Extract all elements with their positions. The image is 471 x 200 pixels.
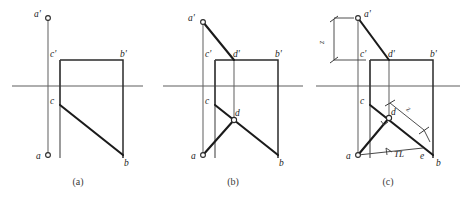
dimension-z-top-tick-start: [385, 100, 395, 106]
front-view-rectangle-a: [60, 60, 123, 158]
label-b-top-a: b: [124, 158, 129, 168]
caption-panel-a: (a): [58, 176, 98, 187]
label-e-top-c: e: [420, 151, 424, 161]
dimension-z-top-ext: [424, 130, 430, 142]
label-a-top-c: a: [346, 151, 351, 161]
point-marker-d-top-b: [231, 117, 236, 122]
caption-panel-b: (b): [213, 176, 253, 187]
dimension-z-front: z: [317, 16, 366, 63]
label-c-front-c: c': [360, 49, 367, 59]
label-d-top-b: d: [235, 108, 240, 118]
label-b-top-c: b: [436, 158, 441, 168]
label-c-top-a: c: [50, 96, 55, 106]
front-view-rectangle-c: [370, 60, 433, 158]
panel-b-diagram: a' c' d' b' c d a b: [155, 0, 315, 175]
label-b-front-b: b': [275, 49, 283, 59]
point-marker-a-top: [46, 153, 51, 158]
caption-panel-c: (c): [368, 176, 408, 187]
label-a-top-b: a: [191, 151, 196, 161]
technical-drawing-figure: a' c' b' c a b a' c' d' b' c d a b: [0, 0, 471, 200]
point-marker-a-top-b: [201, 153, 206, 158]
label-c-front-b: c': [205, 49, 212, 59]
panel-a-diagram: a' c' b' c a b: [0, 0, 155, 175]
point-marker-a-top-c: [356, 153, 361, 158]
top-view-line-cb-a: [60, 105, 123, 155]
label-a-front-c: a': [364, 9, 372, 19]
label-c-front-a: c': [50, 49, 57, 59]
label-a-front-a: a': [34, 9, 42, 19]
top-view-line-ad-b: [203, 120, 234, 155]
label-b-front-c: b': [430, 49, 438, 59]
label-a-front-b: a': [188, 13, 196, 23]
top-view-line-ad-c: [358, 118, 389, 155]
label-true-length: TL: [394, 149, 404, 159]
label-d-front-b: d': [233, 49, 241, 59]
label-d-front-c: d': [388, 49, 396, 59]
point-marker-a-front-b: [201, 20, 206, 25]
point-marker-a-front-c: [356, 16, 361, 21]
point-marker-a-front: [46, 16, 51, 21]
label-a-top-a: a: [36, 151, 41, 161]
dimension-z-front-label: z: [317, 40, 326, 45]
label-b-front-a: b': [120, 49, 128, 59]
front-view-rectangle-b: [215, 60, 278, 158]
label-b-top-b: b: [279, 158, 284, 168]
label-c-top-b: c: [205, 96, 210, 106]
panel-c-diagram: z z a' c' d' b' c d a e b TL: [310, 0, 471, 175]
dimension-z-top-label: z: [404, 104, 413, 114]
label-c-top-c: c: [360, 96, 365, 106]
label-d-top-c: d: [391, 107, 396, 117]
